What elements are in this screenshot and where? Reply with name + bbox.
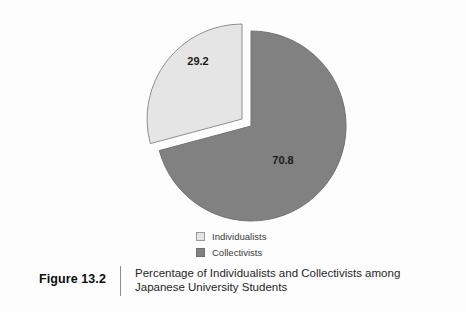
figure-container: 29.2 70.8 Individualists Collectivists F…	[0, 0, 466, 312]
legend-swatch-individualists	[196, 232, 205, 241]
legend-item-collectivists[interactable]: Collectivists	[196, 245, 346, 260]
legend-swatch-collectivists	[196, 248, 205, 257]
caption-line-2: Japanese University Students	[135, 280, 400, 294]
figure-caption: Figure 13.2 Percentage of Individualists…	[0, 264, 466, 304]
pie-chart-svg: 29.2 70.8	[0, 0, 466, 228]
pie-slice-individualists[interactable]	[147, 24, 242, 144]
legend-label-collectivists: Collectivists	[212, 247, 262, 258]
slice-value-individualists: 29.2	[187, 55, 208, 67]
caption-text: Percentage of Individualists and Collect…	[121, 264, 400, 294]
slice-value-collectivists: 70.8	[272, 154, 293, 166]
legend-item-individualists[interactable]: Individualists	[196, 229, 346, 244]
caption-line-1: Percentage of Individualists and Collect…	[135, 266, 400, 280]
figure-number-label: Figure 13.2	[0, 264, 106, 286]
legend-label-individualists: Individualists	[212, 231, 266, 242]
pie-chart: 29.2 70.8	[0, 0, 466, 228]
chart-legend: Individualists Collectivists	[196, 229, 346, 261]
